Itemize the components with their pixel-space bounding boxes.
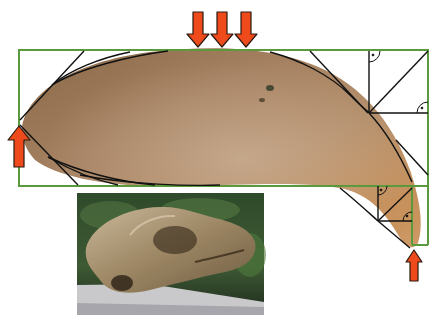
arrow-down-icon	[235, 12, 257, 47]
fossil-diagram	[0, 0, 441, 324]
skull-photo	[77, 193, 266, 315]
arrow-up-icon	[406, 250, 422, 281]
arrow-down-icon	[187, 12, 209, 47]
arrow-down-icon	[211, 12, 233, 47]
